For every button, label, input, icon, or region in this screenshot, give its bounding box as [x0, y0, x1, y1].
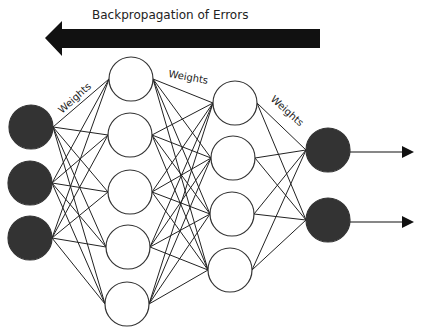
hidden-2-node-4 — [208, 248, 252, 292]
neural-network-diagram: Backpropagation of Errors Weights Weight… — [0, 0, 423, 334]
hidden-1-node-2 — [108, 113, 152, 157]
hidden-1-node-3 — [108, 170, 152, 214]
output-node-1 — [306, 128, 350, 172]
hidden-1-node-4 — [106, 225, 150, 269]
output-arrow-head-1 — [402, 146, 414, 158]
connections — [52, 79, 306, 304]
hidden-1-node-1 — [109, 57, 153, 101]
edge — [149, 103, 213, 304]
hidden-2-node-1 — [213, 81, 257, 125]
hidden-2-node-3 — [210, 192, 254, 236]
edge — [255, 150, 306, 158]
edge — [52, 238, 105, 304]
edge — [149, 158, 211, 304]
backprop-title: Backpropagation of Errors — [92, 8, 248, 22]
weights-label-3: Weights — [269, 93, 306, 128]
input-node-1 — [9, 105, 53, 149]
hidden-1-node-5 — [105, 282, 149, 326]
output-node-2 — [306, 198, 350, 242]
weights-label-2: Weights — [168, 68, 209, 86]
edge — [254, 150, 306, 214]
edge — [252, 220, 306, 270]
output-arrow-head-2 — [402, 216, 414, 228]
input-node-3 — [8, 216, 52, 260]
output-arrows — [350, 146, 414, 228]
backprop-arrow — [45, 21, 320, 56]
edge — [254, 214, 306, 220]
hidden-2-node-2 — [211, 136, 255, 180]
input-node-2 — [8, 161, 52, 205]
